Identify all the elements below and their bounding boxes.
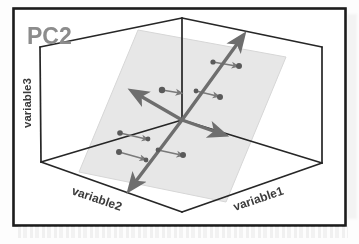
page-title: PC2 — [27, 23, 72, 49]
data-point-p1-proj — [236, 63, 242, 69]
data-point-p1 — [210, 59, 215, 64]
data-point-p4 — [117, 130, 123, 136]
pca-diagram-svg: PC2 variable3 variable2 variable1 — [0, 0, 359, 244]
data-point-p6-proj — [180, 152, 186, 158]
axis-edge-left-vertical — [40, 47, 41, 162]
data-point-p2 — [194, 89, 199, 94]
data-point-p6 — [156, 148, 161, 153]
data-point-p5-proj — [144, 158, 149, 163]
data-point-p5 — [116, 149, 122, 155]
data-point-p2-proj — [217, 94, 223, 100]
data-point-p4-proj — [146, 137, 151, 142]
data-point-p3 — [159, 87, 165, 93]
axis-label-variable3: variable3 — [21, 78, 33, 128]
figure-root: PC2 variable3 variable2 variable1 — [0, 0, 359, 244]
